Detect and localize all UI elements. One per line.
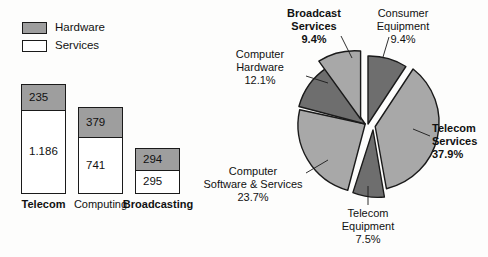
pie-chart: Broadcast Services 9.4% Consumer Equipme… [244,0,488,257]
pie-label-computer-software-services: Computer Software & Services 23.7% [200,165,306,204]
pie-label-line1: Computer [229,165,277,177]
bar-segment-services: 295 [135,170,180,194]
pie-label-pct: 37.9% [432,148,488,161]
pie-label-line1: Consumer [378,7,429,19]
bar-value-services: 741 [79,160,105,172]
pie-label-line1: Telecom [432,122,476,134]
pie-label-pct: 7.5% [322,233,414,246]
pie-label-computer-hardware: Computer Hardware 12.1% [214,48,306,87]
pie-label-line1: Computer [236,48,284,60]
bar-value-hardware: 235 [22,92,48,104]
bar-group-telecom: 235 1.186 [21,84,66,194]
pie-label-pct: 9.4% [268,33,360,46]
pie-label-line2: Equipment [342,220,395,232]
pie-label-telecom-services: Telecom Services 37.9% [432,122,488,161]
pie-label-line2: Equipment [377,20,430,32]
bar-value-hardware: 379 [79,117,105,129]
pie-label-line1: Broadcast [287,7,341,19]
pie-label-line2: Services [432,135,477,147]
pie-label-line2: Hardware [236,61,284,73]
bar-segment-hardware: 379 [78,107,123,138]
pie-label-line2: Services [291,20,336,32]
bar-segment-hardware: 294 [135,148,180,171]
bar-category-broadcasting: Broadcasting [122,199,194,210]
bar-group-broadcasting: 294 295 [135,148,180,194]
figure-canvas: Hardware Services 235 1.186 379 741 [0,0,488,257]
bar-value-services: 1.186 [22,146,58,158]
pie-label-line1: Telecom [348,207,389,219]
pie-label-pct: 23.7% [200,191,306,204]
pie-label-telecom-equipment: Telecom Equipment 7.5% [322,207,414,246]
pie-label-line2: Software & Services [203,178,302,190]
pie-label-consumer-equipment: Consumer Equipment 9.4% [357,7,449,46]
pie-label-broadcast-services: Broadcast Services 9.4% [268,7,360,46]
stacked-bar-chart: 235 1.186 379 741 294 295 Telecom [0,0,244,257]
bar-value-hardware: 294 [136,154,162,166]
bar-value-services: 295 [136,176,162,188]
bar-segment-hardware: 235 [21,84,66,111]
pie-label-pct: 9.4% [357,33,449,46]
bar-segment-services: 1.186 [21,110,66,194]
bar-segment-services: 741 [78,137,123,194]
pie-label-pct: 12.1% [214,74,306,87]
bar-group-computing: 379 741 [78,107,123,194]
